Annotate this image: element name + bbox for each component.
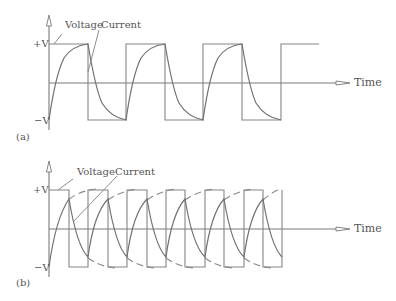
panel-a: Voltage Current +V −V Time (a) xyxy=(16,15,382,142)
panel-a-time-arrow-icon xyxy=(336,81,350,85)
panel-b-y-arrow-icon xyxy=(47,161,52,172)
panel-b-minus-v-label: −V xyxy=(34,262,50,273)
panel-b: Voltage Current +V −V Time (b) xyxy=(16,161,382,288)
panel-b-time-label: Time xyxy=(354,222,382,235)
panel-b-plus-v-label: +V xyxy=(33,184,49,195)
panel-b-current-label: Current xyxy=(115,166,155,177)
panel-a-minus-v-label: −V xyxy=(34,115,50,126)
panel-b-time-arrow-icon xyxy=(336,227,350,231)
panel-b-voltage-leader xyxy=(58,179,73,190)
panel-a-time-label: Time xyxy=(354,76,382,89)
panel-b-label: (b) xyxy=(16,277,30,288)
panel-a-y-arrow-icon xyxy=(47,15,52,26)
panel-a-current-label: Current xyxy=(101,19,141,30)
waveform-figure: Voltage Current +V −V Time (a) Voltage C… xyxy=(0,0,396,301)
panel-a-voltage-label: Voltage xyxy=(64,19,103,30)
panel-b-voltage-label: Voltage xyxy=(76,166,115,177)
panel-a-voltage-leader xyxy=(54,34,62,44)
panel-a-plus-v-label: +V xyxy=(33,38,49,49)
panel-b-upper-envelope xyxy=(69,189,282,200)
panel-a-label: (a) xyxy=(16,131,30,142)
